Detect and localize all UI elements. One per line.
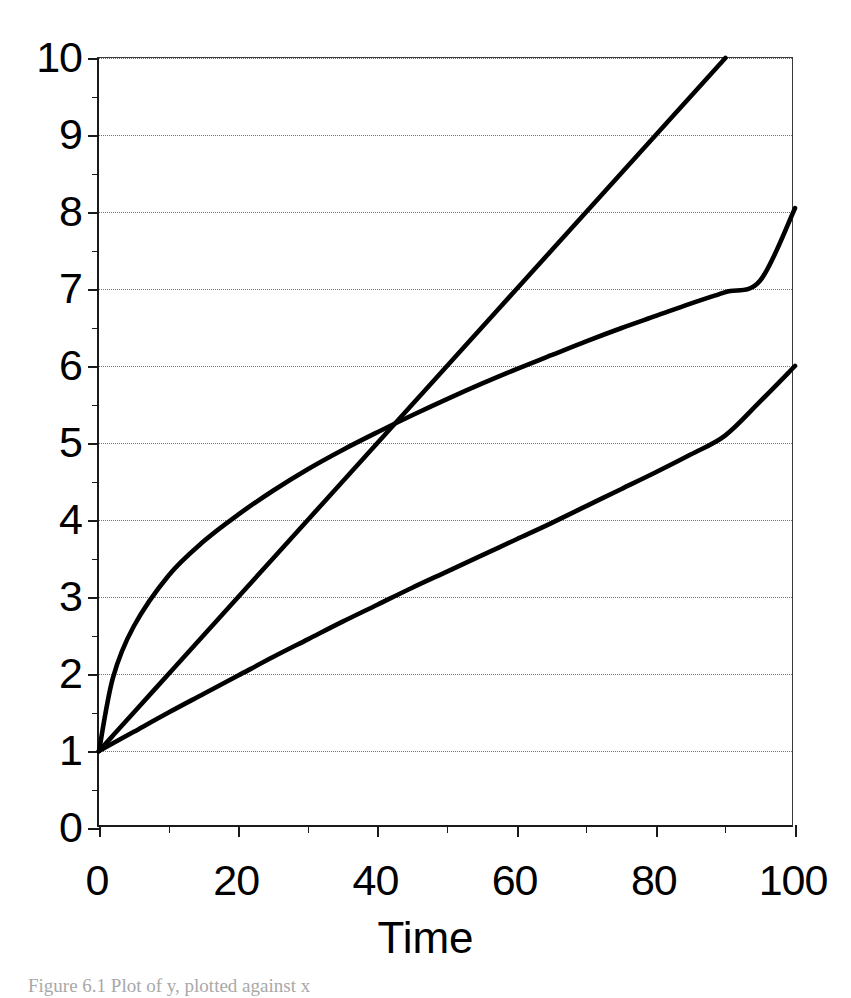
x-tick-label-80: 80: [589, 859, 719, 902]
y-tick-major-0: [88, 828, 99, 830]
x-tick-major-100: [795, 825, 797, 837]
y-tick-minor-5.5: [92, 405, 99, 406]
x-tick-label-100: 100: [728, 859, 851, 902]
y-tick-major-6: [88, 366, 99, 368]
y-tick-label-4: 4: [6, 498, 82, 541]
y-tick-minor-8.5: [92, 174, 99, 175]
y-tick-label-2: 2: [6, 652, 82, 695]
plot-area: [97, 57, 793, 827]
y-tick-label-1: 1: [6, 729, 82, 772]
y-tick-minor-4.5: [92, 482, 99, 483]
y-tick-label-3: 3: [6, 575, 82, 618]
y-tick-minor-3.5: [92, 559, 99, 560]
y-tick-minor-7.5: [92, 251, 99, 252]
figure-caption: Figure 6.1 Plot of y, plotted against x: [28, 975, 728, 998]
y-tick-major-7: [88, 289, 99, 291]
y-tick-label-7: 7: [6, 267, 82, 310]
x-axis-title: Time: [0, 916, 851, 960]
y-tick-minor-1.5: [92, 713, 99, 714]
y-tick-minor-0.5: [92, 790, 99, 791]
data-curve-shallow-lower-curve: [99, 366, 795, 751]
y-tick-label-0: 0: [6, 806, 82, 849]
y-tick-major-2: [88, 674, 99, 676]
x-tick-label-0: 0: [32, 859, 162, 902]
y-tick-major-5: [88, 443, 99, 445]
y-tick-minor-6.5: [92, 328, 99, 329]
y-tick-major-3: [88, 597, 99, 599]
data-curve-concave-upper-curve: [99, 208, 795, 751]
y-tick-label-5: 5: [6, 421, 82, 464]
x-tick-label-20: 20: [171, 859, 301, 902]
x-tick-label-60: 60: [450, 859, 580, 902]
y-tick-label-6: 6: [6, 344, 82, 387]
y-tick-major-9: [88, 135, 99, 137]
y-tick-major-8: [88, 212, 99, 214]
y-tick-label-10: 10: [6, 36, 82, 79]
y-tick-label-9: 9: [6, 113, 82, 156]
x-tick-label-40: 40: [310, 859, 440, 902]
y-tick-major-4: [88, 520, 99, 522]
data-curve-steep-straight-line: [99, 58, 725, 751]
y-tick-minor-9.5: [92, 97, 99, 98]
data-curves-group: [99, 58, 795, 828]
y-tick-label-8: 8: [6, 190, 82, 233]
y-tick-major-10: [88, 58, 99, 60]
y-tick-minor-2.5: [92, 636, 99, 637]
